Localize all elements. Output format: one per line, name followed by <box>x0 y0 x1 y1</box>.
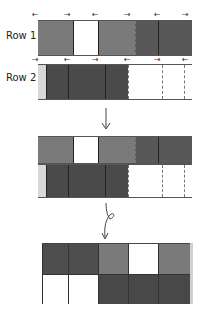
merged-row-2-segment <box>162 165 184 197</box>
grid-cell <box>158 244 190 274</box>
row-1-segment <box>135 21 158 55</box>
grid-cell <box>42 244 68 274</box>
merged-row-1-segment <box>135 137 158 163</box>
arrow-left-icon: ← <box>182 56 189 64</box>
row-1-segment <box>38 21 73 55</box>
row-1-segment <box>73 21 98 55</box>
arrow-right-icon: → <box>32 56 39 64</box>
grid-cell <box>98 274 128 304</box>
merged-row-2-segment <box>128 165 162 197</box>
arrow-left-icon: ← <box>92 11 99 19</box>
merged-row-2-segment <box>46 165 68 197</box>
grid-cell <box>158 274 190 304</box>
merged-row-1-segment <box>98 137 135 163</box>
grid-cell <box>128 244 158 274</box>
row-2-segment <box>162 65 184 99</box>
grid-cell <box>68 274 98 304</box>
row-1-strip <box>38 20 192 56</box>
down-arrow-icon <box>100 108 112 132</box>
row-2-strip <box>38 64 192 100</box>
arrow-left-icon: ← <box>154 11 161 19</box>
arrow-right-icon: → <box>182 11 189 19</box>
row-2-segment <box>68 65 105 99</box>
merged-row-2-segment <box>68 165 105 197</box>
row-2-label: Row 2 <box>6 72 36 83</box>
grid-cell <box>128 274 158 304</box>
loop-arrow-icon <box>98 203 118 243</box>
row-2-segment <box>105 65 128 99</box>
arrow-left-icon: ← <box>124 56 131 64</box>
merged-row-1-segment <box>73 137 98 163</box>
grid-cell <box>98 244 128 274</box>
final-grid <box>42 243 190 304</box>
arrow-right-icon: → <box>124 11 131 19</box>
grid-cell <box>68 244 98 274</box>
arrow-right-icon: → <box>64 11 71 19</box>
grid-cell <box>42 274 68 304</box>
row-2-segment <box>184 65 192 99</box>
row-1-segment <box>158 21 192 55</box>
merged-row-2-segment <box>184 165 192 197</box>
row-1-label: Row 1 <box>6 30 36 41</box>
row-1-segment <box>98 21 135 55</box>
arrow-left-icon: ← <box>32 11 39 19</box>
row-2-segment <box>38 65 46 99</box>
arrow-left-icon: ← <box>64 56 71 64</box>
merged-row-2-segment <box>38 165 46 197</box>
merged-row-1-segment <box>158 137 192 163</box>
merged-row-2-strip <box>38 164 192 198</box>
row-2-segment <box>46 65 68 99</box>
final-grid-edge <box>190 243 193 304</box>
arrow-right-icon: → <box>154 56 161 64</box>
merged-row-1-strip <box>38 136 192 164</box>
row-2-segment <box>128 65 162 99</box>
merged-row-1-segment <box>38 137 73 163</box>
arrow-right-icon: → <box>92 56 99 64</box>
merged-row-2-segment <box>105 165 128 197</box>
